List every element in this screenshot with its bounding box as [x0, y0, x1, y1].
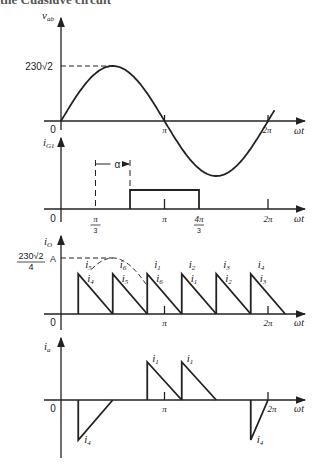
io-origin-label: 0	[50, 317, 56, 328]
iG1-tick-label-num-1: π	[162, 214, 167, 224]
io-pulse-label-bottom-6: i3	[260, 272, 267, 286]
io-x-label: ωt	[294, 317, 304, 328]
ia-x-label: ωt	[294, 403, 304, 414]
iG1-tick-label-den-0: 3	[94, 227, 98, 234]
ia-pulse-label-2: i1	[152, 352, 159, 366]
io-pulse-4	[182, 274, 217, 314]
io-pulse-label-top-5: i3	[223, 258, 230, 272]
waveform-figure: vab0ωt230√2π2πiG10ωtαπ3π4π32πiO0ωt230√24…	[0, 0, 323, 471]
io-pulse-label-bottom-5: i2	[225, 272, 232, 286]
iG1-y-label: iG1	[43, 136, 55, 150]
io-peak-unit: A	[50, 254, 56, 264]
io-pulse-label-top-6: i4	[258, 258, 265, 272]
io-pulse-label-top-1: i5	[85, 258, 92, 272]
io-pulse-label-bottom-4: i1	[191, 272, 198, 286]
ia-pulse-label-3: i1	[187, 352, 194, 366]
iG1-x-label: ωt	[294, 213, 304, 224]
axes	[17, 18, 305, 458]
io-pulse-label-top-3: i1	[154, 258, 161, 272]
io-tick-label-2pi: 2π	[263, 318, 273, 328]
iG1-tick-label-num-2: 4π	[194, 214, 204, 224]
vab-x-label: ωt	[294, 125, 304, 136]
vab-peak-label: 230√2	[25, 61, 53, 72]
vab-y-label: vab	[42, 9, 54, 23]
io-peak-label-den: 4	[28, 262, 33, 272]
io-pulse-label-bottom-3: i6	[156, 272, 163, 286]
ia-pulse-label-4: i4	[257, 433, 264, 447]
io-pulse-label-bottom-1: i4	[87, 272, 94, 286]
iG1-tick-label-den-2: 3	[197, 227, 201, 234]
ia-pulse-label-1: i4	[84, 433, 91, 447]
io-pulse-label-bottom-2: i5	[122, 272, 129, 286]
ia-positive-pulse-2	[182, 362, 217, 400]
io-pulse-label-top-4: i2	[189, 258, 196, 272]
io-pulse-1	[78, 274, 113, 314]
vab-tick-label-2pi: 2π	[262, 125, 272, 135]
ia-tick-label-pi: π	[162, 404, 167, 414]
io-peak-label-num: 230√2	[19, 251, 44, 261]
vab-tick-label-pi: π	[162, 125, 167, 135]
ia-tick-label-2pi: 2π	[267, 404, 277, 414]
ia-origin-label: 0	[50, 403, 56, 414]
curves	[61, 66, 285, 440]
io-tick-label-pi: π	[162, 318, 167, 328]
io-y-label: iO	[44, 235, 52, 249]
io-pulse-2	[113, 274, 148, 314]
io-pulse-5	[216, 274, 251, 314]
iG1-origin-label: 0	[50, 213, 56, 224]
iG1-tick-label-num-0: π	[93, 214, 98, 224]
ia-y-label: ia	[44, 340, 51, 354]
alpha-label: α	[115, 159, 121, 170]
iG1-tick-label-num-3: 2π	[263, 214, 273, 224]
io-pulse-label-top-2: i6	[120, 258, 127, 272]
vab-origin-label: 0	[50, 124, 56, 135]
